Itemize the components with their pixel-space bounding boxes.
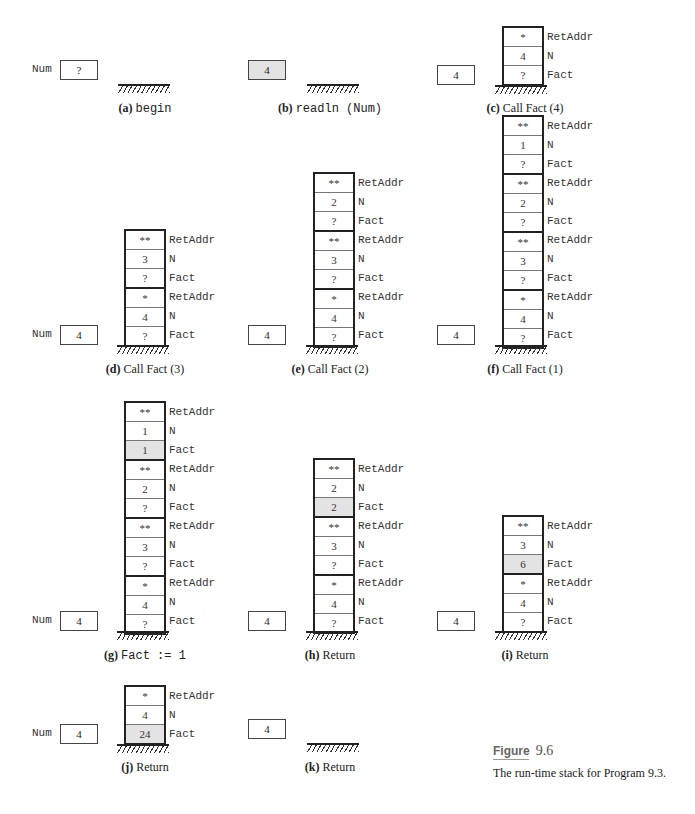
cell-n: 3 <box>504 251 542 270</box>
panel-caption: (k) Return <box>270 760 390 775</box>
label-fact: Fact <box>547 555 593 574</box>
label-retaddr: RetAddr <box>547 174 593 193</box>
cell-fact: ? <box>315 613 353 632</box>
num-variable-box: 4 <box>60 325 98 345</box>
cell-n: 4 <box>504 593 542 612</box>
label-retaddr: RetAddr <box>169 687 215 706</box>
cell-n: 2 <box>504 193 542 212</box>
cell-fact: ? <box>126 268 164 287</box>
label-n: N <box>358 593 404 612</box>
label-fact: Fact <box>358 612 404 631</box>
cell-fact: ? <box>504 612 542 631</box>
activation-record: **3? <box>504 231 542 289</box>
panel-caption-text: Return <box>323 760 356 774</box>
label-fact: Fact <box>358 269 404 288</box>
figure-caption: The run-time stack for Program 9.3. <box>493 766 666 781</box>
activation-record: *4? <box>504 289 542 347</box>
label-fact: Fact <box>547 326 593 345</box>
activation-record: **36 <box>504 517 542 573</box>
cell-n: 3 <box>126 537 164 556</box>
num-label: Num <box>32 727 52 739</box>
label-retaddr: RetAddr <box>169 574 215 593</box>
panel-caption: (b) readln (Num) <box>270 101 390 116</box>
panel-tag: (j) <box>121 760 133 774</box>
label-n: N <box>358 536 404 555</box>
stack-labels: RetAddrNFact <box>547 28 593 85</box>
label-n: N <box>547 250 593 269</box>
label-retaddr: RetAddr <box>169 231 215 250</box>
activation-record: **1? <box>504 117 542 173</box>
label-retaddr: RetAddr <box>547 117 593 136</box>
label-fact: Fact <box>358 498 404 517</box>
num-variable-box: 4 <box>60 611 98 631</box>
cell-retaddr: ** <box>315 518 353 536</box>
label-n: N <box>169 422 215 441</box>
stack-base-ground-icon <box>118 84 170 93</box>
num-variable-box: 4 <box>437 611 475 631</box>
activation-record: **3? <box>315 516 353 574</box>
num-variable-box: 4 <box>437 325 475 345</box>
activation-record: **3? <box>126 517 164 575</box>
panel-caption-text: Call Fact (1) <box>502 362 563 376</box>
label-retaddr: RetAddr <box>169 460 215 479</box>
runtime-stack: **3?*4? <box>124 229 166 347</box>
cell-n: 3 <box>504 535 542 554</box>
runtime-stack: *424 <box>124 685 166 745</box>
label-fact: Fact <box>547 269 593 288</box>
cell-retaddr: * <box>315 576 353 594</box>
activation-record: **2? <box>126 459 164 517</box>
stack-labels: RetAddrNFactRetAddrNFactRetAddrNFactRetA… <box>547 117 593 345</box>
cell-fact: ? <box>504 154 542 173</box>
runtime-stack: **11**2?**3?*4? <box>124 401 166 635</box>
figure-title: Figure9.6 <box>493 743 553 759</box>
activation-record: *4? <box>315 574 353 632</box>
cell-n: 3 <box>126 249 164 268</box>
panel-caption-text: Call Fact (4) <box>503 101 564 115</box>
stack-base-ground-icon <box>307 743 359 752</box>
cell-retaddr: ** <box>504 233 542 251</box>
label-n: N <box>547 136 593 155</box>
label-n: N <box>358 250 404 269</box>
num-variable-box: 4 <box>248 611 286 631</box>
num-variable-box: 4 <box>437 65 475 85</box>
cell-retaddr: * <box>504 575 542 593</box>
runtime-stack: **2?**3?*4? <box>313 172 355 348</box>
cell-retaddr: ** <box>126 403 164 421</box>
label-fact: Fact <box>169 441 215 460</box>
cell-retaddr: ** <box>126 519 164 537</box>
stack-base-ground-icon <box>306 631 358 640</box>
num-variable-box: 4 <box>248 719 286 739</box>
label-n: N <box>358 193 404 212</box>
panel-tag: (e) <box>292 362 305 376</box>
stack-base-ground-icon <box>495 345 547 354</box>
num-label: Num <box>32 328 52 340</box>
activation-record: **2? <box>315 174 353 230</box>
label-fact: Fact <box>547 66 593 85</box>
cell-retaddr: ** <box>315 460 353 478</box>
cell-n: 4 <box>315 308 353 327</box>
runtime-stack: **1?**2?**3?*4? <box>502 115 544 349</box>
cell-n: 4 <box>126 595 164 614</box>
activation-record: **22 <box>315 460 353 516</box>
label-n: N <box>169 250 215 269</box>
num-variable-box: 4 <box>60 724 98 744</box>
cell-retaddr: * <box>126 577 164 595</box>
panel-tag: (h) <box>305 648 320 662</box>
activation-record: **3? <box>315 230 353 288</box>
figure-word: Figure <box>493 744 530 758</box>
cell-n: 1 <box>126 421 164 440</box>
stack-base-ground-icon <box>307 84 359 93</box>
cell-n: 4 <box>504 309 542 328</box>
label-n: N <box>358 479 404 498</box>
num-label: Num <box>32 614 52 626</box>
cell-retaddr: * <box>126 289 164 307</box>
activation-record: **11 <box>126 403 164 459</box>
cell-fact: ? <box>315 555 353 574</box>
label-retaddr: RetAddr <box>358 517 404 536</box>
panel-caption: (e) Call Fact (2) <box>270 362 390 377</box>
figure-title-rule <box>493 759 529 760</box>
cell-retaddr: ** <box>504 175 542 193</box>
label-fact: Fact <box>169 725 215 744</box>
num-variable-box: ? <box>60 60 98 80</box>
panel-tag: (g) <box>104 648 118 662</box>
